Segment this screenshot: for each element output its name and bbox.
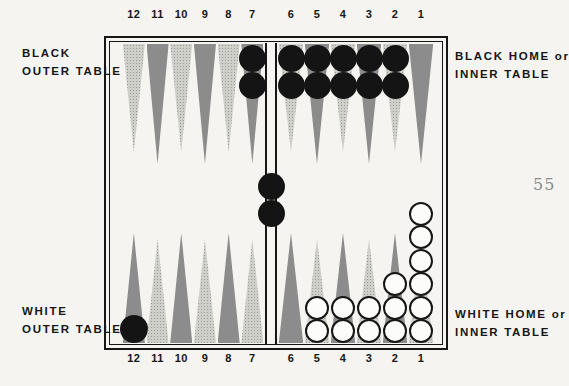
point-bottom-10 [170, 233, 192, 343]
checker-white [409, 319, 433, 343]
point-number-top-7: 7 [249, 8, 256, 20]
point-number-top-12: 12 [127, 8, 140, 20]
checker-white [305, 319, 329, 343]
point-number-top-5: 5 [314, 8, 321, 20]
checker-white [331, 319, 355, 343]
point-number-bottom-10: 10 [175, 352, 188, 364]
point-number-top-9: 9 [202, 8, 209, 20]
point-number-bottom-11: 11 [151, 352, 164, 364]
checker-black [356, 45, 383, 72]
point-bottom-11 [147, 239, 169, 343]
point-number-bottom-3: 3 [366, 352, 373, 364]
point-number-top-11: 11 [151, 8, 164, 20]
point-top-8 [218, 44, 240, 152]
book-page: BLACK OUTER TABLE BLACK HOME or INNER TA… [0, 0, 569, 386]
checker-white [331, 296, 355, 320]
checker-black [330, 72, 357, 99]
point-number-top-4: 4 [340, 8, 347, 20]
checker-black [382, 45, 409, 72]
checker-white [409, 225, 433, 249]
point-number-bottom-1: 1 [418, 352, 425, 364]
checker-black [278, 72, 305, 99]
point-top-1 [409, 44, 433, 164]
point-bottom-8 [218, 233, 240, 343]
checker-white [383, 296, 407, 320]
checker-black [278, 45, 305, 72]
checker-black [120, 315, 148, 343]
point-number-top-6: 6 [288, 8, 295, 20]
bar-checker-black [258, 200, 285, 227]
point-top-12 [123, 44, 145, 152]
checker-black [304, 45, 331, 72]
checker-black [304, 72, 331, 99]
point-top-11 [147, 44, 169, 164]
point-number-bottom-12: 12 [127, 352, 140, 364]
checker-black [330, 45, 357, 72]
bar-checker-black [258, 173, 285, 200]
checker-white [383, 319, 407, 343]
checker-white [409, 296, 433, 320]
point-top-9 [194, 44, 216, 164]
point-number-top-1: 1 [418, 8, 425, 20]
backgammon-board: 121110987654321121110987654321 [0, 0, 569, 386]
point-number-bottom-2: 2 [392, 352, 399, 364]
point-number-top-2: 2 [392, 8, 399, 20]
point-bottom-9 [194, 239, 216, 343]
point-bottom-7 [241, 239, 263, 343]
checker-white [305, 296, 329, 320]
checker-white [357, 296, 381, 320]
checker-black [239, 72, 266, 99]
point-bottom-6 [279, 233, 303, 343]
checker-black [382, 72, 409, 99]
point-number-top-3: 3 [366, 8, 373, 20]
checker-white [409, 202, 433, 226]
point-number-bottom-6: 6 [288, 352, 295, 364]
point-number-bottom-4: 4 [340, 352, 347, 364]
checker-black [356, 72, 383, 99]
checker-white [383, 272, 407, 296]
checker-black [239, 45, 266, 72]
checker-white [409, 272, 433, 296]
point-number-bottom-7: 7 [249, 352, 256, 364]
point-number-top-10: 10 [175, 8, 188, 20]
point-number-top-8: 8 [225, 8, 232, 20]
point-number-bottom-9: 9 [202, 352, 209, 364]
checker-white [409, 249, 433, 273]
point-number-bottom-5: 5 [314, 352, 321, 364]
point-number-bottom-8: 8 [225, 352, 232, 364]
checker-white [357, 319, 381, 343]
point-top-10 [170, 44, 192, 152]
